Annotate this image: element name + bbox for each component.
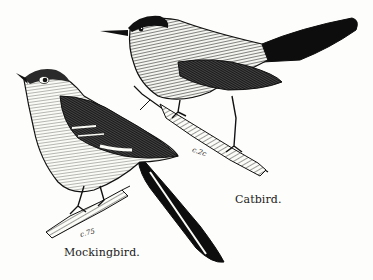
catbird-branch (134, 86, 268, 176)
engraving-artwork (0, 0, 373, 280)
catbird-eye (139, 27, 144, 32)
mockingbird-eye (43, 78, 48, 83)
bird-illustration: c.2c c.75 Catbird. Mockingbird. (0, 0, 373, 280)
catbird-caption: Catbird. (235, 193, 282, 206)
mockingbird-caption: Mockingbird. (64, 246, 140, 259)
